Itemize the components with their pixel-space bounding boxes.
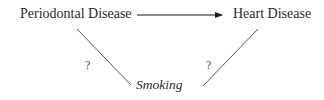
node-periodontal-disease: Periodontal Disease [20, 6, 132, 22]
node-smoking: Smoking [136, 77, 183, 93]
edge-label-right: ? [206, 58, 211, 73]
line-periodontal-to-smoking [77, 29, 131, 85]
edge-label-left: ? [85, 58, 90, 73]
node-heart-disease: Heart Disease [233, 6, 311, 22]
